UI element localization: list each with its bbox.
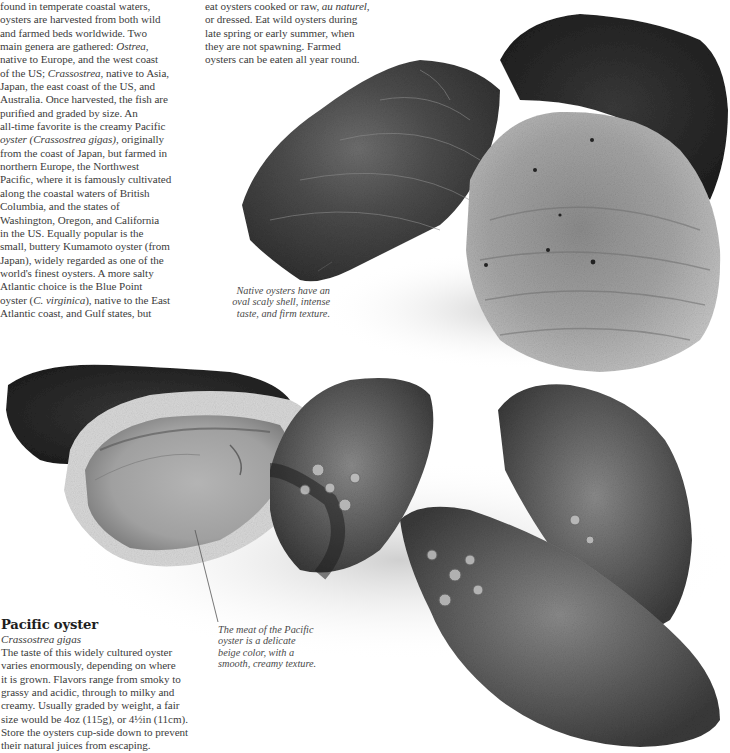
text-line: late spring or early summer, when [205, 27, 395, 40]
pacific-oyster-caption: The meat of the Pacificoyster is a delic… [218, 624, 316, 669]
text-line: Japan, the east coast of the US, and [0, 80, 200, 93]
pacific-oyster-latin-name: Crassostrea gigas [1, 633, 81, 645]
text-line: main genera are gathered: Ostrea, [0, 40, 200, 53]
text-line: Atlantic choice is the Blue Point [0, 280, 200, 293]
text-line: Pacific, where it is famously cultivated [0, 173, 200, 186]
text-line: of the US; Crassostrea, native to Asia, [0, 67, 200, 80]
text-line: oysters can be eaten all year round. [205, 53, 395, 66]
text-line: Store the oysters cup-side down to preve… [1, 726, 201, 739]
text-line: The taste of this widely cultured oyster [1, 646, 201, 659]
text-line: Washington, Oregon, and California [0, 214, 200, 227]
text-line: all-time favorite is the creamy Pacific [0, 120, 200, 133]
text-line: grassy and acidic, through to milky and [1, 686, 201, 699]
text-line: beige color, with a [218, 647, 316, 658]
text-line: Japan), widely regarded as one of the [0, 254, 200, 267]
native-oyster-caption: Native oysters have anoval scaly shell, … [210, 285, 330, 319]
text-line: Columbia, and the states of [0, 200, 200, 213]
text-line: or dressed. Eat wild oysters during [205, 13, 395, 26]
text-line: varies enormously, depending on where [1, 659, 201, 672]
intro-text-left-column: found in temperate coastal waters,oyster… [0, 0, 200, 320]
text-line: world's finest oysters. A more salty [0, 267, 200, 280]
pacific-oyster-description: The taste of this widely cultured oyster… [1, 646, 201, 753]
intro-text-right-column: eat oysters cooked or raw, au naturel,or… [205, 0, 395, 67]
text-line: size would be 4oz (115g), or 4½in (11cm)… [1, 713, 201, 726]
text-line: The meat of the Pacific [218, 624, 316, 635]
text-line: small, buttery Kumamoto oyster (from [0, 240, 200, 253]
text-line: oysters are harvested from both wild [0, 13, 200, 26]
text-line: creamy. Usually graded by weight, a fair [1, 699, 201, 712]
pacific-oyster-heading: Pacific oyster [1, 617, 98, 632]
pacific-caption-leader-line [195, 530, 218, 622]
text-line: it is grown. Flavors range from smoky to [1, 673, 201, 686]
text-line: and farmed beds worldwide. Two [0, 27, 200, 40]
text-line: Australia. Once harvested, the fish are [0, 93, 200, 106]
text-line: eat oysters cooked or raw, au naturel, [205, 0, 395, 13]
text-line: Atlantic coast, and Gulf states, but [0, 307, 200, 320]
text-line: oval scaly shell, intense [210, 296, 330, 307]
text-line: native to Europe, and the west coast [0, 53, 200, 66]
text-line: found in temperate coastal waters, [0, 0, 200, 13]
text-line: taste, and firm texture. [210, 308, 330, 319]
text-line: oyster (C. virginica), native to the Eas… [0, 294, 200, 307]
text-line: along the coastal waters of British [0, 187, 200, 200]
text-line: Native oysters have an [210, 285, 330, 296]
text-line: smooth, creamy texture. [218, 658, 316, 669]
text-line: oyster (Crassostrea gigas), originally [0, 133, 200, 146]
text-line: in the US. Equally popular is the [0, 227, 200, 240]
text-line: their natural juices from escaping. [1, 739, 201, 752]
text-line: oyster is a delicate [218, 635, 316, 646]
text-line: purified and graded by size. An [0, 107, 200, 120]
text-line: northern Europe, the Northwest [0, 160, 200, 173]
text-line: from the coast of Japan, but farmed in [0, 147, 200, 160]
text-line: they are not spawning. Farmed [205, 40, 395, 53]
